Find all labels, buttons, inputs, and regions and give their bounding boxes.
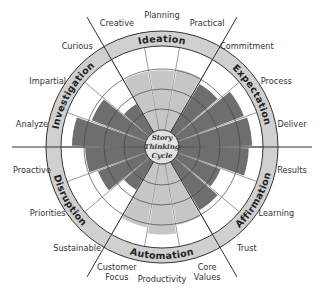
item-label-curious: Curious <box>62 41 93 51</box>
item-label-practical: Practical <box>190 18 225 28</box>
center-title-line-2: Thinking <box>144 142 180 151</box>
item-label-productivity: Productivity <box>138 274 187 284</box>
item-label-priorities: Priorities <box>30 208 66 218</box>
item-label-core-values: CoreValues <box>194 262 221 282</box>
category-disruption: Disruption <box>52 173 90 228</box>
item-label-planning: Planning <box>144 10 179 20</box>
item-label-process: Process <box>261 76 292 86</box>
item-label-commitment: Commitment <box>220 41 274 51</box>
item-label-results: Results <box>277 165 307 175</box>
item-label-impartial: Impartial <box>29 76 66 86</box>
item-label-sustainable: Sustainable <box>53 243 101 253</box>
center-hub: Story Thinking Cycle <box>144 130 180 164</box>
center-title-line-3: Cycle <box>151 151 173 160</box>
item-label-proactive: Proactive <box>13 165 51 175</box>
center-title-line-1: Story <box>152 133 174 142</box>
item-label-deliver: Deliver <box>277 119 307 129</box>
story-thinking-cycle-wheel: IdeationExpectationAffirmationAutomation… <box>0 0 325 296</box>
category-affirmation: Affirmation <box>233 171 273 230</box>
item-label-learning: Learning <box>259 208 295 218</box>
item-label-trust: Trust <box>236 243 258 253</box>
item-label-creative: Creative <box>100 18 134 28</box>
item-label-analyze: Analyze <box>16 119 48 129</box>
item-label-customer-focus: CustomerFocus <box>97 262 137 282</box>
